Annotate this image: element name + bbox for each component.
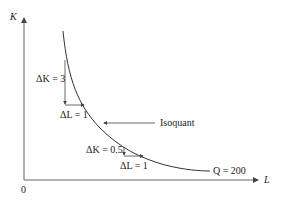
- delta-k-label-2: ΔK = 0.5: [86, 144, 123, 155]
- x-axis-label: L: [263, 174, 270, 185]
- isoquant-diagram: K L 0 ΔK = 3 ΔL = 1 Isoquant ΔK = 0.5 ΔL…: [0, 0, 281, 204]
- delta-l-label-1: ΔL = 1: [60, 109, 88, 120]
- delta-l-label-2: ΔL = 1: [120, 160, 148, 171]
- origin-label: 0: [21, 184, 26, 195]
- delta-k-label-1: ΔK = 3: [36, 73, 65, 84]
- q-label: Q = 200: [213, 165, 246, 176]
- isoquant-label: Isoquant: [160, 117, 195, 128]
- y-axis-label: K: [9, 11, 18, 22]
